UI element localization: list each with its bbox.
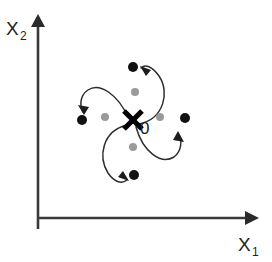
x-axis-label: X (238, 234, 251, 255)
gray-point-top (131, 88, 139, 96)
black-point-right (180, 113, 190, 123)
gray-point-bottom (129, 143, 137, 151)
flow-arrow-to-left (81, 88, 128, 117)
black-point-top (128, 62, 138, 72)
flow-arrow-to-bottom-arrowhead-icon (118, 171, 129, 181)
x-axis-arrowhead-icon (245, 211, 259, 225)
origin-marker-group: 0 (124, 111, 149, 138)
flow-arrow-to-left-arrowhead-icon (78, 105, 89, 115)
black-point-left (77, 115, 87, 125)
gray-point-right (156, 113, 164, 121)
x-axis-label-subscript: 1 (252, 245, 259, 259)
flow-arrow-to-right-arrowhead-icon (173, 131, 184, 142)
y-axis-arrowhead-icon (31, 14, 45, 27)
diagram-canvas: X 1 X 2 (0, 0, 272, 262)
gray-point-left (101, 113, 109, 121)
origin-label: 0 (140, 119, 149, 138)
axis-labels-group: X 1 X 2 (6, 18, 259, 259)
black-point-bottom (129, 170, 139, 180)
figure-container: X 1 X 2 (0, 0, 272, 262)
y-axis-label: X (6, 18, 19, 39)
y-axis-label-subscript: 2 (20, 29, 27, 43)
